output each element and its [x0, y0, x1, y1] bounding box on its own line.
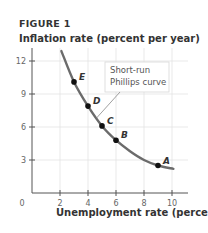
- data-point-d: [85, 103, 91, 109]
- point-label-e: E: [79, 72, 86, 82]
- point-label-a: A: [162, 156, 170, 166]
- point-label-b: B: [121, 130, 128, 140]
- x-tick-label: 8: [141, 199, 146, 208]
- curve-annotation-text: Phillips curve: [110, 77, 166, 87]
- y-tick-label: 3: [21, 156, 26, 165]
- data-point-a: [155, 163, 161, 169]
- origin-label: 0: [19, 199, 24, 208]
- y-tick-label: 6: [21, 123, 26, 132]
- x-tick-label: 10: [167, 199, 177, 208]
- curve-annotation-text: Short-run: [110, 65, 150, 75]
- x-tick-label: 4: [85, 199, 90, 208]
- y-tick-label: 12: [16, 57, 26, 66]
- x-tick-label: 2: [57, 199, 62, 208]
- point-label-c: C: [107, 116, 114, 126]
- data-point-b: [113, 137, 119, 143]
- data-point-c: [99, 123, 105, 129]
- x-tick-label: 6: [113, 199, 118, 208]
- point-label-d: D: [93, 96, 101, 106]
- phillips-curve-chart: 246810369120Short-runPhillips curveABCDE: [0, 0, 208, 233]
- y-tick-label: 9: [21, 90, 26, 99]
- data-point-e: [71, 79, 77, 85]
